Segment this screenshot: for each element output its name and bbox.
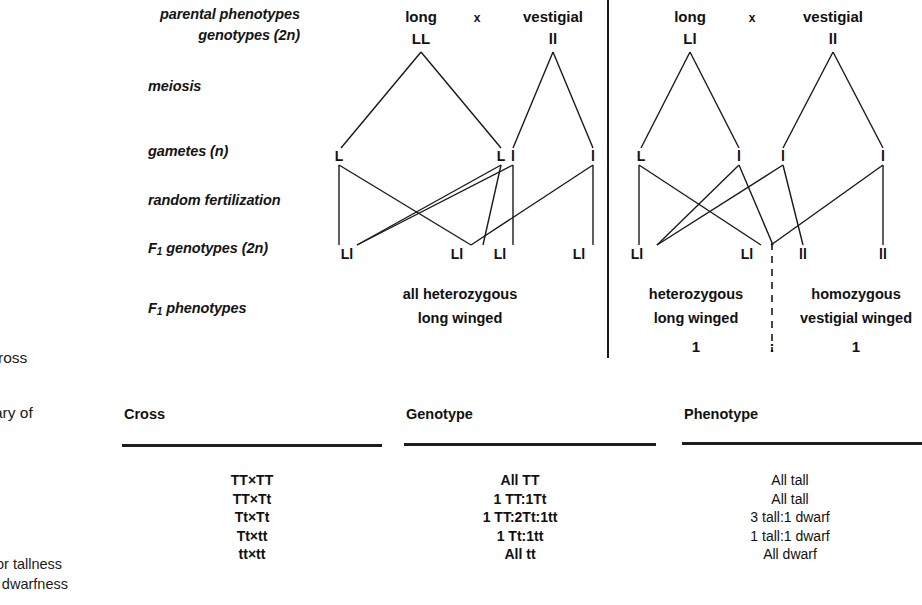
table-row: 1 tall:1 dwarf: [750, 528, 829, 546]
panel-divider: [607, 0, 609, 358]
left-parent1-phenotype: long: [376, 8, 466, 25]
table-header-genotype: Genotype: [406, 406, 473, 422]
left-parent1-genotype: LL: [376, 30, 466, 47]
stage-label-meiosis: meiosis: [0, 78, 300, 94]
table-column-phenotype: All tall All tall 3 tall:1 dwarf 1 tall:…: [690, 472, 890, 564]
table-row: Tt×Tt: [235, 509, 270, 527]
table-row: Tt×tt: [237, 528, 268, 546]
diagram-page: parental phenotypes genotypes (2n) meios…: [0, 0, 922, 605]
table-row: All tall: [771, 472, 808, 490]
table-column-cross: TT×TT TT×Tt Tt×Tt Tt×tt tt×tt: [182, 472, 322, 564]
right-ratio-left: 1: [622, 338, 770, 355]
right-gamete-4: l: [871, 148, 895, 164]
stage-label-genotypes: genotypes (2n): [0, 27, 300, 43]
right-f1-genotype-1: Ll: [620, 246, 654, 262]
left-cross-symbol: x: [462, 11, 492, 25]
right-f1-phenotype-left-line2: long winged: [622, 310, 770, 326]
right-gamete-3: l: [771, 148, 795, 164]
right-f1-phenotype-left-line1: heterozygous: [622, 286, 770, 302]
table-row: All dwarf: [763, 546, 817, 564]
table-rule-cross: [122, 444, 382, 447]
left-parent2-phenotype: vestigial: [498, 8, 608, 25]
table-row: TT×TT: [231, 472, 273, 490]
left-f1-phenotype-line2: long winged: [370, 310, 550, 326]
left-f1-genotype-3: Ll: [483, 246, 517, 262]
right-f1-phenotype-right-line1: homozygous: [776, 286, 922, 302]
table-row: 1 TT:1Tt: [494, 491, 547, 509]
right-parent1-genotype: Ll: [645, 30, 735, 47]
stage-label-random-fertilization: random fertilization: [0, 192, 300, 208]
right-parent1-phenotype: long: [645, 8, 735, 25]
right-cross-symbol: x: [737, 11, 767, 25]
right-f1-phenotype-right-line2: vestigial winged: [776, 310, 922, 326]
table-row: 1 TT:2Tt:1tt: [483, 509, 558, 527]
right-parent2-genotype: ll: [778, 30, 888, 47]
left-parent2-genotype: ll: [498, 30, 608, 47]
stage-label-f1-genotypes: F1 genotypes (2n): [0, 240, 300, 257]
left-gamete-3: l: [501, 148, 525, 164]
table-row: 3 tall:1 dwarf: [750, 509, 829, 527]
legend-dwarfness-fragment: r dwarfness: [0, 576, 68, 592]
caption-summary-fragment: ary of: [0, 404, 33, 422]
table-header-cross: Cross: [124, 406, 165, 422]
left-gamete-1: L: [327, 148, 351, 164]
right-ratio-right: 1: [776, 338, 922, 355]
right-f1-genotype-2: Ll: [730, 246, 764, 262]
stage-label-gametes: gametes (n): [0, 143, 300, 159]
stage-label-f1-phenotypes: F1 phenotypes: [0, 300, 300, 317]
table-rule-genotype: [404, 443, 656, 446]
right-gamete-1: L: [629, 148, 653, 164]
table-row: All tt: [504, 546, 535, 564]
legend-tallness-fragment: or tallness: [0, 556, 62, 572]
left-f1-genotype-2: Ll: [440, 246, 474, 262]
right-gamete-2: l: [727, 148, 751, 164]
table-rule-phenotype: [682, 442, 922, 445]
f1-phenotypes-text: F1 phenotypes: [148, 300, 247, 316]
left-f1-genotype-4: Ll: [562, 246, 596, 262]
stage-label-parental-phenotypes: parental phenotypes: [0, 6, 300, 22]
right-f1-genotype-4: ll: [866, 246, 900, 262]
right-f1-genotype-3: ll: [786, 246, 820, 262]
caption-cross-fragment: ross: [0, 349, 27, 367]
table-row: TT×Tt: [233, 491, 272, 509]
left-f1-phenotype-line1: all heterozygous: [370, 286, 550, 302]
left-f1-genotype-1: Ll: [330, 246, 364, 262]
right-parent2-phenotype: vestigial: [778, 8, 888, 25]
left-gamete-4: l: [581, 148, 605, 164]
f1-genotypes-text: F1 genotypes (2n): [148, 240, 268, 256]
table-column-genotype: All TT 1 TT:1Tt 1 TT:2Tt:1tt 1 Tt:1tt Al…: [420, 472, 620, 564]
table-row: tt×tt: [239, 546, 266, 564]
table-header-phenotype: Phenotype: [684, 406, 758, 422]
table-row: All tall: [771, 491, 808, 509]
table-row: All TT: [501, 472, 540, 490]
table-row: 1 Tt:1tt: [497, 528, 544, 546]
